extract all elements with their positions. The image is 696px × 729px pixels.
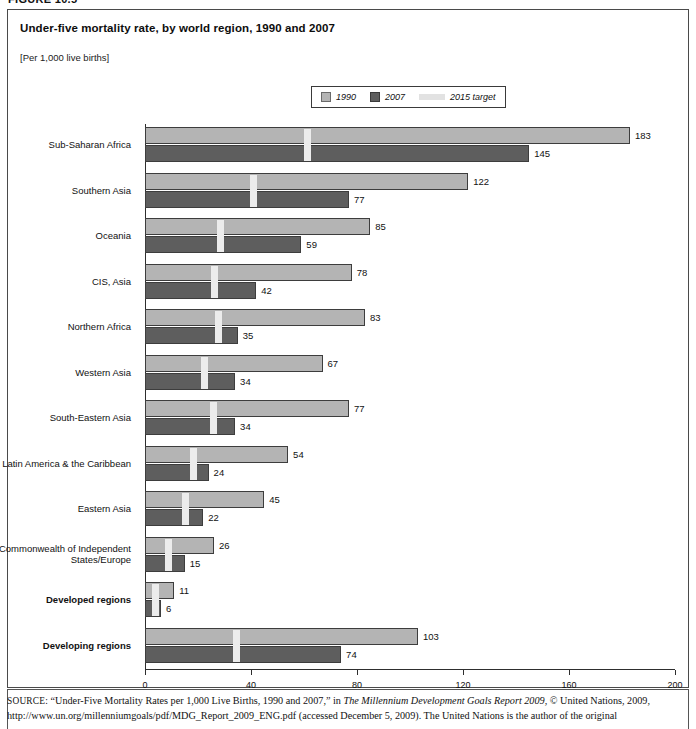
category-label: Latin America & the Caribbean [0, 458, 131, 470]
bar-group: 2615 [145, 537, 675, 572]
target-2015-marker [201, 357, 208, 389]
category-label: Sub-Saharan Africa [0, 139, 131, 151]
category-label: South-Eastern Asia [0, 412, 131, 424]
bar-value-label-2007: 42 [261, 285, 272, 296]
bar-value-label-1990: 26 [219, 540, 230, 551]
bar-value-label-1990: 77 [354, 403, 365, 414]
legend-label-1990: 1990 [336, 92, 356, 102]
target-2015-marker [190, 448, 197, 480]
bar-2007 [145, 191, 349, 208]
bar-value-label-2007: 74 [346, 649, 357, 660]
bar-1990 [145, 173, 468, 190]
target-2015-marker [217, 220, 224, 252]
target-2015-marker [152, 584, 159, 616]
bar-1990 [145, 491, 264, 508]
target-2015-marker [182, 493, 189, 525]
bar-value-label-1990: 67 [328, 358, 339, 369]
target-2015-marker [233, 630, 240, 662]
legend-swatch-2007-icon [370, 92, 380, 102]
bar-value-label-2007: 6 [166, 603, 171, 614]
bar-value-label-2007: 34 [240, 376, 251, 387]
bar-value-label-2007: 35 [243, 330, 254, 341]
chart-title: Under-five mortality rate, by world regi… [20, 22, 335, 34]
bar-group: 7842 [145, 264, 675, 299]
category-label: Developed regions [0, 594, 131, 606]
x-axis-tick [675, 670, 676, 675]
bar-group: 7734 [145, 400, 675, 435]
source-text-b: , © United Nations, 2009, [545, 695, 650, 706]
category-axis-labels: Sub-Saharan AfricaSouthern AsiaOceaniaCI… [0, 124, 138, 670]
bar-group: 8335 [145, 309, 675, 344]
bar-group: 8559 [145, 218, 675, 253]
bar-1990 [145, 628, 418, 645]
bar-value-label-1990: 103 [423, 631, 439, 642]
bar-2007 [145, 282, 256, 299]
legend-label-2015-target: 2015 target [450, 92, 496, 102]
legend-item-1990: 1990 [321, 92, 356, 102]
legend-swatch-target-icon [419, 94, 445, 100]
chart-plot-area: 0408012016020018314512277855978428335673… [145, 124, 675, 670]
x-axis-tick [145, 670, 146, 675]
bar-2007 [145, 327, 238, 344]
category-label: Western Asia [0, 367, 131, 379]
bar-value-label-2007: 24 [214, 467, 225, 478]
x-axis-tick [251, 670, 252, 675]
figure-label: FIGURE 10.5 [8, 0, 77, 5]
x-axis-tick [463, 670, 464, 675]
bar-value-label-2007: 15 [190, 558, 201, 569]
bar-value-label-1990: 54 [293, 449, 304, 460]
bar-group: 116 [145, 582, 675, 617]
chart-units-note: [Per 1,000 live births] [20, 52, 109, 63]
target-2015-marker [250, 175, 257, 207]
bar-group: 10374 [145, 628, 675, 663]
category-label: CIS, Asia [0, 276, 131, 288]
bar-1990 [145, 218, 370, 235]
bar-1990 [145, 355, 323, 372]
bar-group: 4522 [145, 491, 675, 526]
bar-1990 [145, 264, 352, 281]
category-label: Oceania [0, 230, 131, 242]
source-divider [7, 689, 689, 690]
target-2015-marker [215, 311, 222, 343]
bar-1990 [145, 537, 214, 554]
source-note: SOURCE: “Under-Five Mortality Rates per … [7, 694, 689, 722]
legend-label-2007: 2007 [385, 92, 405, 102]
figure-page: FIGURE 10.5 Under-five mortality rate, b… [0, 0, 696, 729]
bar-1990 [145, 446, 288, 463]
bar-value-label-1990: 78 [357, 267, 368, 278]
bar-value-label-2007: 22 [208, 512, 219, 523]
bar-1990 [145, 309, 365, 326]
x-axis-tick [357, 670, 358, 675]
category-label: Eastern Asia [0, 503, 131, 515]
target-2015-marker [304, 129, 311, 161]
bar-2007 [145, 646, 341, 663]
bar-value-label-1990: 122 [473, 176, 489, 187]
bar-group: 5424 [145, 446, 675, 481]
bar-group: 183145 [145, 127, 675, 162]
bar-value-label-2007: 59 [306, 239, 317, 250]
bar-1990 [145, 400, 349, 417]
category-label: Southern Asia [0, 185, 131, 197]
bar-value-label-2007: 145 [534, 148, 550, 159]
bar-value-label-1990: 11 [179, 585, 189, 596]
bar-group: 6734 [145, 355, 675, 390]
legend-item-2007: 2007 [370, 92, 405, 102]
source-publication-title: The Millennium Development Goals Report … [343, 695, 544, 706]
target-2015-marker [211, 266, 218, 298]
bar-group: 12277 [145, 173, 675, 208]
bar-value-label-2007: 34 [240, 421, 251, 432]
source-text-a: “Under-Five Mortality Rates per 1,000 Li… [48, 695, 343, 706]
bar-value-label-1990: 45 [269, 494, 280, 505]
target-2015-marker [210, 402, 217, 434]
category-label: Developing regions [0, 640, 131, 652]
legend-swatch-1990-icon [321, 92, 331, 102]
bar-value-label-1990: 83 [370, 312, 381, 323]
x-axis-line [145, 669, 675, 670]
bar-value-label-2007: 77 [354, 194, 365, 205]
legend-item-2015-target: 2015 target [419, 92, 496, 102]
bar-value-label-1990: 85 [375, 221, 386, 232]
bar-2007 [145, 418, 235, 435]
bar-2007 [145, 464, 209, 481]
source-prefix: SOURCE: [7, 696, 48, 706]
x-axis-tick [569, 670, 570, 675]
